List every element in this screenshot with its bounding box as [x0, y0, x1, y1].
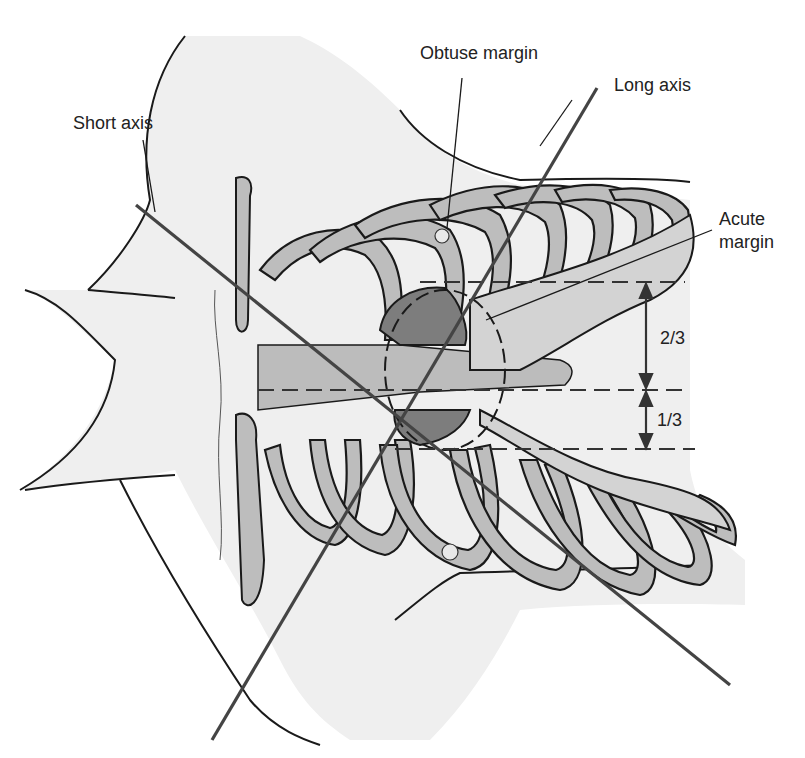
label-acute-margin-line1: Acute — [719, 209, 765, 230]
label-two-thirds: 2/3 — [660, 328, 685, 349]
label-one-third: 1/3 — [657, 410, 682, 431]
label-short-axis: Short axis — [73, 113, 153, 134]
label-long-axis: Long axis — [614, 75, 691, 96]
label-obtuse-margin: Obtuse margin — [420, 43, 538, 64]
label-acute-margin-line2: margin — [719, 232, 774, 253]
